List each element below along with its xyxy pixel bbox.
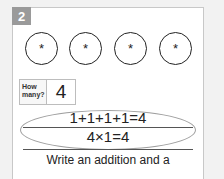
answer-line [23,149,193,150]
counter-circle: * [114,32,147,65]
asterisk-icon: * [173,42,178,55]
addition-equation[interactable]: 1+1+1+1=4 [13,110,203,126]
instruction-text: Write an addition and a [13,153,203,167]
counter-circles: * * * * [13,8,203,88]
asterisk-icon: * [83,42,88,55]
how-many-answer[interactable]: 4 [47,80,75,104]
asterisk-icon: * [39,42,44,55]
asterisk-icon: * [128,42,133,55]
multiplication-equation[interactable]: 4×1=4 [13,129,203,145]
counter-circle: * [69,32,102,65]
counter-circle: * [25,32,58,65]
how-many-box: How many? 4 [19,79,76,105]
how-many-label: How many? [20,80,47,104]
counter-circle: * [159,32,192,65]
question-card: 2 * * * * How many? 4 1+1+1+1=4 4×1=4 Wr… [12,7,204,179]
equations-area: 1+1+1+1=4 4×1=4 [13,106,203,156]
